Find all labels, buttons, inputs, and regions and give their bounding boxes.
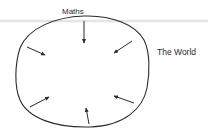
diagram-canvas bbox=[0, 0, 208, 134]
inward-arrows bbox=[27, 21, 134, 124]
arrow-lower-left-icon bbox=[30, 97, 49, 107]
world-outline bbox=[16, 16, 149, 127]
world-label: The World bbox=[157, 48, 196, 57]
arrow-upper-left-icon bbox=[27, 47, 45, 55]
maths-label: Maths bbox=[62, 8, 84, 16]
arrow-bottom-icon bbox=[86, 108, 89, 124]
arrow-lower-right-icon bbox=[114, 96, 134, 103]
arrow-upper-right-icon bbox=[114, 41, 132, 53]
